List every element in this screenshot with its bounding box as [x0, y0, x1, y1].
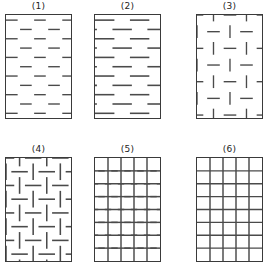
pattern-swatch-6 — [196, 157, 263, 262]
hatch-basketweave-fine — [197, 15, 262, 118]
pattern-panel-2: (2) — [94, 0, 161, 119]
pattern-panel-3: (3) — [196, 0, 263, 119]
pattern-label-5: (5) — [94, 143, 161, 155]
hatch-running-bond-horizontal-dashes-coarse — [95, 15, 160, 118]
pattern-swatch-2 — [94, 14, 161, 119]
hatch-running-bond-horizontal-dashes-fine — [6, 15, 71, 118]
hatch-basketweave-coarse — [6, 158, 71, 261]
pattern-label-4: (4) — [5, 143, 72, 155]
pattern-label-1: (1) — [5, 0, 72, 12]
hatch-pattern-figure: (1)(2)(3)(4)(5)(6) — [0, 0, 267, 273]
hatch-vertical-lines-with-staggered-horizontal-dashes — [95, 158, 160, 261]
pattern-panel-1: (1) — [5, 0, 72, 119]
hatch-stack-bond-full-grid — [197, 158, 262, 261]
pattern-swatch-4 — [5, 157, 72, 262]
pattern-swatch-1 — [5, 14, 72, 119]
pattern-swatch-5 — [94, 157, 161, 262]
pattern-label-6: (6) — [196, 143, 263, 155]
pattern-panel-6: (6) — [196, 143, 263, 262]
pattern-label-2: (2) — [94, 0, 161, 12]
pattern-panel-4: (4) — [5, 143, 72, 262]
pattern-label-3: (3) — [196, 0, 263, 12]
pattern-panel-5: (5) — [94, 143, 161, 262]
pattern-swatch-3 — [196, 14, 263, 119]
